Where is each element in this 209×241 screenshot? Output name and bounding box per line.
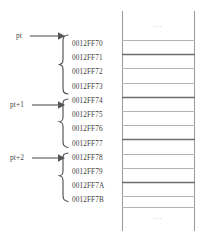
address-label: 0012FF70	[72, 41, 118, 48]
pointer-label-pt-plus-2: pt+2	[10, 154, 24, 161]
address-label: 0012FF75	[72, 112, 118, 119]
address-label: 0012FF73	[72, 84, 118, 91]
address-label: 0012FF7A	[72, 183, 118, 190]
address-label: 0012FF77	[72, 141, 118, 148]
pointer-label-pt-plus-1: pt+1	[10, 101, 24, 108]
address-label: 0012FF7B	[72, 197, 118, 204]
address-label: 0012FF71	[72, 55, 118, 62]
pointer-label-pt: pt	[16, 32, 22, 39]
address-label: 0012FF76	[72, 126, 118, 133]
memory-layout-diagram: pt pt+1 pt+2 0012FF70 0012FF71 0012FF72 …	[0, 0, 209, 241]
address-label: 0012FF74	[72, 98, 118, 105]
address-label: 0012FF72	[72, 69, 118, 76]
memory-ellipsis-bottom: ...	[122, 213, 194, 221]
memory-ellipsis-top: ...	[122, 21, 194, 29]
diagram-text-layer: pt pt+1 pt+2 0012FF70 0012FF71 0012FF72 …	[0, 0, 209, 241]
address-label: 0012FF79	[72, 169, 118, 176]
address-label: 0012FF78	[72, 155, 118, 162]
